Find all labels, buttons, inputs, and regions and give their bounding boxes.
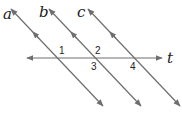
- parallel-lines-diagram: abct 1234: [0, 0, 182, 113]
- line-label-t: t: [167, 49, 174, 67]
- line-label-c: c: [77, 3, 86, 21]
- angle-label-2: 2: [95, 45, 101, 56]
- line-label-b: b: [39, 3, 49, 21]
- parallel-arrow-mark-a: [35, 34, 39, 38]
- angle-label-1: 1: [59, 45, 65, 56]
- parallel-arrow-mark-c: [112, 34, 116, 38]
- parallel-arrow-mark-b: [73, 34, 77, 38]
- angle-label-3: 3: [91, 61, 97, 72]
- line-label-a: a: [3, 5, 12, 23]
- angle-label-4: 4: [130, 61, 136, 72]
